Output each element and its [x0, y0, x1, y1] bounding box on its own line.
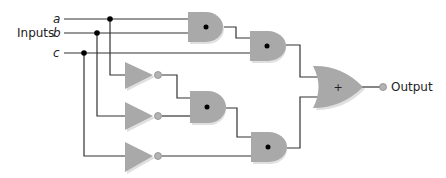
input-label-c: c — [53, 46, 60, 60]
wire-c-to-not3 — [84, 53, 125, 156]
output-label: Output — [391, 80, 433, 94]
and-symbol-icon — [205, 105, 210, 110]
and-symbol-icon — [204, 25, 209, 30]
wire-not1-to-and3 — [162, 75, 190, 98]
inversion-bubble-icon — [155, 153, 162, 160]
logic-circuit-diagram: Inputs a b c Output — [0, 0, 446, 178]
input-label-a: a — [53, 12, 60, 26]
junction-dot-c — [81, 50, 87, 56]
and-symbol-icon — [265, 44, 270, 49]
wire-and1-to-and2 — [224, 27, 250, 38]
not-gate-1 — [125, 62, 162, 91]
inputs-label: Inputs — [17, 26, 54, 40]
and-gate-4 — [251, 132, 287, 164]
and-gate-2 — [250, 31, 286, 63]
input-wires — [64, 19, 250, 156]
not-gate-3 — [125, 142, 162, 174]
output-terminal-icon — [380, 84, 387, 91]
and-symbol-icon — [266, 145, 271, 150]
or-symbol-icon: + — [333, 81, 342, 94]
and-gate-3 — [190, 91, 226, 125]
inversion-bubble-icon — [155, 113, 162, 120]
inversion-bubble-icon — [155, 72, 162, 79]
wire-and3-to-and4 — [226, 108, 251, 137]
not-gate-2 — [125, 102, 162, 132]
input-label-b: b — [53, 26, 61, 40]
and-gate-1 — [188, 12, 224, 44]
wire-and4-to-or — [287, 97, 318, 148]
or-gate: + — [313, 66, 365, 110]
junction-dot-a — [107, 16, 113, 22]
wire-and2-to-or — [286, 45, 318, 77]
junction-dot-b — [94, 30, 100, 36]
wire-a-to-not1 — [110, 19, 125, 75]
